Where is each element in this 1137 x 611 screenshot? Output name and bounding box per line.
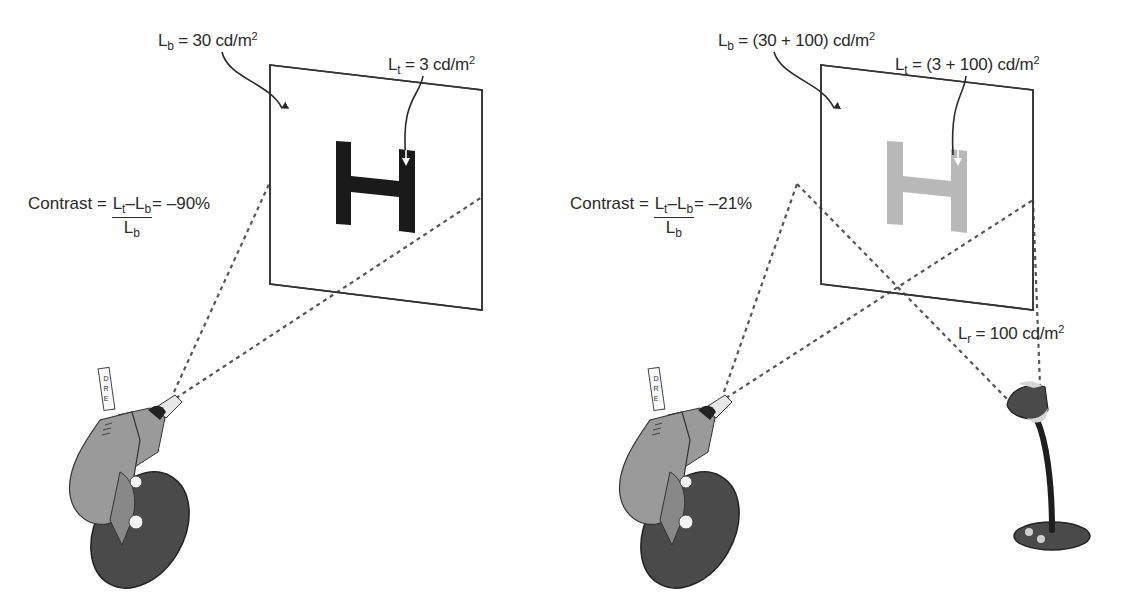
subscript: b — [727, 39, 733, 53]
lamp-light-line-right — [1033, 200, 1040, 385]
desk-lamp-icon — [1007, 381, 1090, 550]
contrast-prefix: Contrast = — [28, 194, 107, 213]
left-background-luminance-label: Lb = 30 cd/m2 — [158, 30, 258, 53]
num-op: – — [125, 194, 134, 213]
contrast-denominator: Lb — [112, 218, 152, 240]
contrast-prefix: Contrast = — [570, 194, 649, 213]
value: = (3 + 100) cd/m — [912, 55, 1034, 74]
symbol: L — [158, 31, 167, 50]
symbol: L — [958, 324, 967, 343]
meter-strip-letter: E — [104, 395, 109, 402]
den-symbol: L — [666, 218, 675, 237]
left-target-luminance-label: Lt = 3 cd/m2 — [388, 54, 475, 77]
right-background-luminance-label: Lb = (30 + 100) cd/m2 — [718, 30, 875, 53]
meter-strip-letter: R — [653, 385, 658, 392]
diagram-canvas: D R E — [0, 0, 1137, 611]
subscript: t — [397, 63, 400, 77]
num-symbol: L — [677, 194, 686, 213]
left-light-meter-icon: D R E — [69, 367, 209, 605]
superscript: 2 — [469, 54, 475, 66]
contrast-result: = –21% — [694, 194, 752, 213]
superscript: 2 — [1033, 54, 1039, 66]
symbol: L — [388, 55, 397, 74]
num-symbol: L — [655, 194, 664, 213]
value: = 100 cd/m — [976, 324, 1059, 343]
meter-strip-letter: E — [654, 395, 659, 402]
num-sub: b — [144, 202, 151, 216]
right-target-luminance-label: Lt = (3 + 100) cd/m2 — [895, 54, 1039, 77]
contrast-fraction: Lt–Lb Lb — [112, 194, 152, 218]
superscript: 2 — [869, 30, 875, 42]
den-sub: b — [133, 226, 140, 240]
den-sub: b — [675, 226, 682, 240]
superscript: 2 — [1058, 323, 1064, 335]
meter-strip-letter: D — [103, 375, 108, 382]
num-symbol: L — [113, 194, 122, 213]
subscript: t — [904, 63, 907, 77]
value: = (30 + 100) cd/m — [738, 31, 869, 50]
num-sub: b — [686, 202, 693, 216]
contrast-result: = –90% — [152, 194, 210, 213]
left-scenario: D R E — [69, 52, 482, 606]
right-light-meter-icon: D R E — [619, 367, 759, 605]
left-contrast-formula: Contrast = Lt–Lb Lb = –90% — [28, 194, 210, 218]
contrast-denominator: Lb — [654, 218, 694, 240]
right-contrast-formula: Contrast = Lt–Lb Lb = –21% — [570, 194, 752, 218]
meter-strip-letter: D — [653, 375, 658, 382]
contrast-fraction: Lt–Lb Lb — [654, 194, 694, 218]
contrast-numerator: Lt–Lb — [112, 194, 152, 218]
den-symbol: L — [124, 218, 133, 237]
superscript: 2 — [252, 30, 258, 42]
subscript: b — [167, 39, 173, 53]
num-symbol: L — [135, 194, 144, 213]
contrast-numerator: Lt–Lb — [654, 194, 694, 218]
subscript: r — [967, 332, 971, 346]
value: = 3 cd/m — [405, 55, 469, 74]
value: = 30 cd/m — [178, 31, 251, 50]
meter-strip-letter: R — [103, 385, 108, 392]
symbol: L — [718, 31, 727, 50]
symbol: L — [895, 55, 904, 74]
reflected-luminance-label: Lr = 100 cd/m2 — [958, 323, 1064, 346]
num-op: – — [667, 194, 676, 213]
